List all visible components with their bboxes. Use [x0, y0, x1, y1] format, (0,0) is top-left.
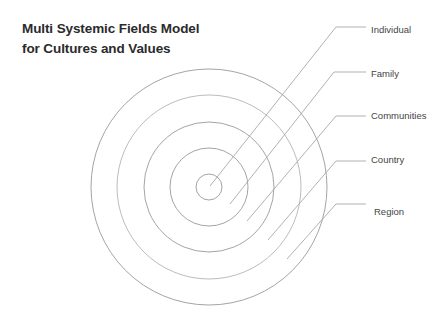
- label-country: Country: [371, 154, 404, 165]
- label-region: Region: [374, 206, 404, 217]
- ring-communities: [144, 122, 274, 252]
- leader-line-communities: [247, 116, 366, 221]
- ring-country: [117, 95, 301, 279]
- label-communities: Communities: [371, 110, 426, 121]
- ring-family: [170, 148, 248, 226]
- ring-individual: [196, 174, 222, 200]
- leader-line-region: [287, 204, 366, 259]
- label-individual: Individual: [371, 24, 411, 35]
- label-family: Family: [371, 68, 399, 79]
- leader-line-country: [268, 161, 366, 240]
- ring-region: [91, 69, 327, 305]
- leader-line-individual: [210, 27, 366, 186]
- leader-line-family: [230, 72, 366, 204]
